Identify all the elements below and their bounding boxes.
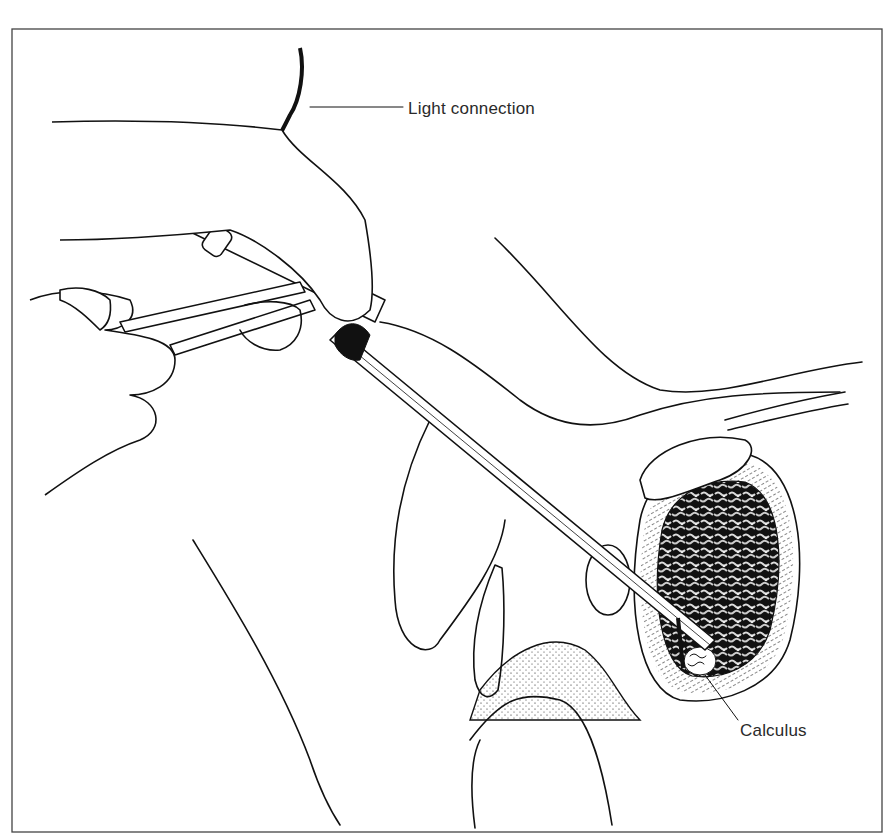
- line-drawing: [0, 0, 889, 838]
- upper-hand: [52, 121, 372, 321]
- cystoscopy-illustration: Light connection Calculus: [0, 0, 889, 838]
- muscle-fibers: [725, 392, 848, 430]
- rectum: [470, 642, 640, 720]
- abdomen-outline: [495, 238, 862, 392]
- forceps-handle-upper: [120, 282, 305, 332]
- pubic-outline: [380, 322, 840, 425]
- label-calculus: Calculus: [740, 721, 807, 741]
- label-light-connection: Light connection: [408, 99, 535, 119]
- thigh-outline: [193, 540, 340, 825]
- calculus-stone: [684, 647, 716, 675]
- bladder-lumen: [657, 481, 778, 676]
